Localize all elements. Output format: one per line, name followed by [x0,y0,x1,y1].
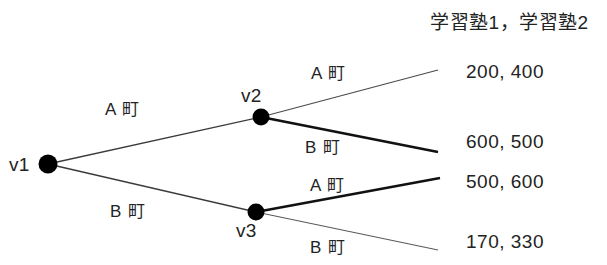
node-label-v3: v3 [236,221,256,240]
payoff-columns-header: 学習塾1，学習塾2 [430,13,589,32]
node-v2-dot[interactable] [253,109,270,126]
edge-label-v1-v3: B 町 [110,203,146,220]
edge-v3-b-line [256,212,438,250]
node-label-v1: v1 [9,155,29,174]
payoff-leaf2: 600, 500 [466,132,544,151]
node-label-v2: v2 [241,86,261,105]
edge-v3-a-line [256,178,440,212]
edge-v1-v2-line [48,117,261,164]
payoff-leaf4: 170, 330 [466,232,544,251]
diagram-canvas: 学習塾1，学習塾2 v1 v2 v3 A 町 B 町 A 町 B 町 A 町 B… [0,0,607,265]
edge-label-v1-v2: A 町 [105,101,140,118]
edge-v1-v3-line [48,164,256,212]
edge-label-v3-a: A 町 [310,177,345,194]
edge-label-v3-b: B 町 [310,239,346,256]
payoff-leaf1: 200, 400 [466,62,544,81]
edge-label-v2-a: A 町 [311,65,346,82]
payoff-leaf3: 500, 600 [466,172,544,191]
node-v1-dot[interactable] [39,155,58,174]
edge-label-v2-b: B 町 [305,139,341,156]
edge-v2-a-line [261,70,438,117]
node-v3-dot[interactable] [248,204,265,221]
edge-v2-b-line [261,117,438,152]
